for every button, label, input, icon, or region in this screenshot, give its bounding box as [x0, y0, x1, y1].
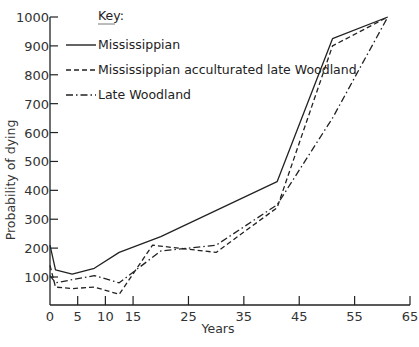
y-tick-label: 300 — [24, 212, 49, 227]
x-tick-label: 35 — [236, 309, 253, 324]
y-tick-label: 100 — [24, 270, 49, 285]
y-tick-label: 600 — [24, 126, 49, 141]
legend-item-mississippian: Mississippian — [98, 37, 180, 52]
axes: 1002003004005006007008009001000051015253… — [16, 10, 418, 324]
y-tick-label: 500 — [24, 154, 49, 169]
x-tick-label: 0 — [46, 309, 54, 324]
plot-lines — [50, 17, 388, 294]
y-tick-label: 400 — [24, 183, 49, 198]
y-tick-label: 800 — [24, 68, 49, 83]
legend-item-late-woodland: Late Woodland — [98, 87, 191, 102]
y-tick-label: 1000 — [16, 10, 49, 25]
x-tick-label: 25 — [180, 309, 197, 324]
x-axis-title: Years — [201, 321, 235, 336]
x-tick-label: 65 — [402, 309, 419, 324]
x-tick-label: 10 — [97, 309, 114, 324]
legend-title: Key: — [98, 8, 124, 23]
series-line-dashed — [50, 17, 388, 294]
x-tick-label: 45 — [291, 309, 308, 324]
y-tick-label: 200 — [24, 241, 49, 256]
x-tick-label: 15 — [125, 309, 142, 324]
series-line-dashdot — [50, 17, 388, 283]
x-tick-label: 55 — [346, 309, 363, 324]
y-tick-label: 700 — [24, 97, 49, 112]
legend-item-acculturated: Mississippian acculturated late Woodland — [98, 62, 357, 77]
x-tick-label: 5 — [74, 309, 82, 324]
mortality-line-chart: 1002003004005006007008009001000051015253… — [0, 0, 419, 347]
y-axis-title: Probability of dying — [3, 120, 18, 241]
series-line-solid — [50, 17, 388, 274]
y-tick-label: 900 — [24, 39, 49, 54]
